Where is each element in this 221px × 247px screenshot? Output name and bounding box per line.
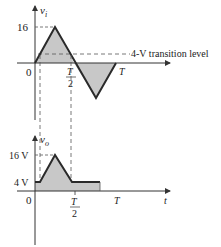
output-tick-4v: 4 V	[14, 177, 29, 188]
output-y-label: vo	[40, 133, 49, 148]
output-waveform-plot: vo 16 V 4 V 0 T 2 T t	[9, 133, 170, 245]
output-t-half-den: 2	[72, 208, 77, 219]
input-positive-area	[35, 27, 74, 63]
output-tick-16v: 16 V	[9, 150, 29, 161]
input-t-half-den: 2	[68, 78, 73, 89]
output-t-full: T	[114, 195, 121, 206]
input-negative-area	[74, 63, 116, 98]
input-origin: 0	[26, 66, 32, 78]
transition-level-label: 4-V transition level	[131, 48, 209, 59]
output-t-half-num: T	[71, 196, 78, 207]
output-x-label: t	[164, 195, 167, 206]
input-t-full: T	[119, 66, 126, 77]
input-t-half-num: T	[67, 66, 74, 77]
clipper-waveform-diagram: vi 16 0 T 2 T 4-V transition level vo 16…	[0, 0, 221, 247]
output-origin: 0	[26, 194, 32, 206]
input-waveform-plot: vi 16 0 T 2 T 4-V transition level	[17, 4, 209, 120]
input-y-label: vi	[40, 4, 47, 19]
input-tick-16: 16	[17, 21, 29, 33]
